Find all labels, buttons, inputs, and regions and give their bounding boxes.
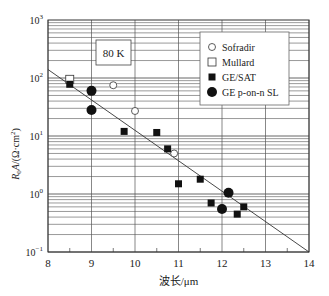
data-point (164, 145, 171, 152)
legend-marker (209, 44, 216, 51)
x-tick-label: 13 (260, 257, 272, 269)
legend-label: Sofradir (222, 42, 255, 53)
x-tick-label: 8 (45, 257, 51, 269)
y-axis-label: R0A/(Ω·cm2) (9, 128, 23, 181)
x-tick-label: 10 (130, 257, 142, 269)
data-point (224, 188, 234, 198)
legend-label: GE p-on-n SL (222, 87, 279, 98)
data-point (87, 86, 97, 96)
y-tick-label: 101 (30, 129, 44, 142)
data-point (132, 107, 139, 114)
x-tick-label: 12 (217, 257, 228, 269)
x-axis-label: 波长/μm (159, 275, 199, 287)
data-point (208, 199, 215, 206)
data-point (171, 150, 178, 157)
y-tick-label: 102 (30, 71, 44, 84)
data-point (87, 105, 97, 115)
data-point (240, 203, 247, 210)
legend-label: GE/SAT (222, 72, 256, 83)
y-tick-label: 100 (30, 187, 44, 200)
y-tick-label: 10−1 (26, 245, 44, 258)
data-point (234, 211, 241, 218)
scatter-plot: 89101112131410−1100101102103波长/μmR0A/(Ω·… (0, 0, 329, 296)
temperature-label: 80 K (103, 47, 125, 59)
x-tick-label: 14 (304, 257, 316, 269)
data-point (175, 180, 182, 187)
legend-label: Mullard (222, 57, 254, 68)
y-tick-label: 103 (30, 13, 44, 26)
data-point (110, 82, 117, 89)
legend-marker (209, 74, 216, 81)
legend-marker (207, 87, 217, 97)
x-tick-label: 11 (173, 257, 184, 269)
legend-marker (208, 58, 216, 66)
data-point (217, 204, 227, 214)
data-point (66, 81, 73, 88)
data-point (121, 128, 128, 135)
chart: 89101112131410−1100101102103波长/μmR0A/(Ω·… (0, 0, 329, 296)
data-point (153, 129, 160, 136)
data-point (197, 176, 204, 183)
x-tick-label: 9 (89, 257, 95, 269)
